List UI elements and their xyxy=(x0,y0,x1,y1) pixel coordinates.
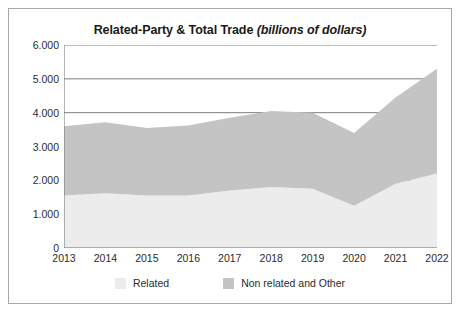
legend-label: Non related and Other xyxy=(241,277,345,289)
y-tick-label: 4.000 xyxy=(13,107,59,119)
x-axis-tick-labels: 2013201420152016201720182019202020212022 xyxy=(64,252,437,268)
y-tick-label: 6.000 xyxy=(13,39,59,51)
plot-area xyxy=(64,45,437,248)
stacked-area-plot xyxy=(64,45,437,248)
legend-label: Related xyxy=(133,277,169,289)
x-tick-label: 2016 xyxy=(177,252,200,264)
legend-item[interactable]: Non related and Other xyxy=(223,277,345,289)
x-tick-label: 2019 xyxy=(301,252,324,264)
y-tick-label: 2.000 xyxy=(13,174,59,186)
chart-title: Related-Party & Total Trade (billions of… xyxy=(9,23,451,37)
x-tick-label: 2020 xyxy=(342,252,365,264)
y-axis-tick-labels: 01.0002.0003.0004.0005.0006.000 xyxy=(9,45,59,248)
chart-title-main: Related-Party & Total Trade xyxy=(94,23,257,37)
chart-figure: Related-Party & Total Trade (billions of… xyxy=(8,8,452,304)
y-tick-label: 5.000 xyxy=(13,73,59,85)
area-series xyxy=(64,69,437,206)
x-tick-label: 2022 xyxy=(425,252,448,264)
y-tick-label: 3.000 xyxy=(13,141,59,153)
chart-legend: RelatedNon related and Other xyxy=(9,277,451,289)
legend-item[interactable]: Related xyxy=(115,277,169,289)
legend-swatch-icon xyxy=(115,278,126,289)
x-tick-label: 2018 xyxy=(260,252,283,264)
x-tick-label: 2017 xyxy=(218,252,241,264)
y-tick-label: 1.000 xyxy=(13,208,59,220)
chart-title-unit: (billions of dollars) xyxy=(257,23,367,37)
legend-swatch-icon xyxy=(223,278,234,289)
x-tick-label: 2013 xyxy=(52,252,75,264)
x-tick-label: 2015 xyxy=(135,252,158,264)
x-tick-label: 2014 xyxy=(94,252,117,264)
x-tick-label: 2021 xyxy=(384,252,407,264)
